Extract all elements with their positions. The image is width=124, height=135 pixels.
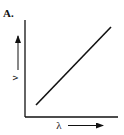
y-axis-label: ν [8, 75, 20, 80]
x-axis-label: λ [56, 119, 62, 131]
plot-area: ν λ [0, 0, 124, 135]
data-line [36, 27, 111, 105]
